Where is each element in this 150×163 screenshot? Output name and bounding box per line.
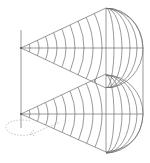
top-source-point xyxy=(20,47,22,49)
top-wavefronts xyxy=(0,0,102,129)
wave-diagram xyxy=(0,0,150,163)
diagram-canvas xyxy=(0,0,150,163)
top-source-cone xyxy=(0,0,143,129)
bottom-source-cone xyxy=(0,33,143,163)
bottom-source-point xyxy=(20,113,22,115)
